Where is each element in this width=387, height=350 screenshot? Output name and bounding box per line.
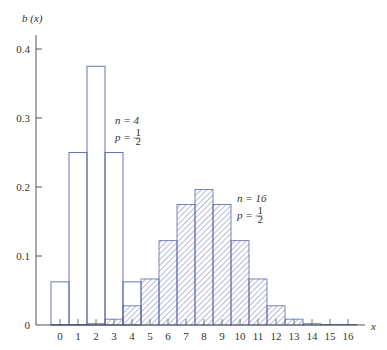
y-tick-label: 0 [25,319,31,331]
svg-text:n = 4: n = 4 [115,114,139,126]
bar-n4-x1 [69,153,87,326]
svg-text:n = 16: n = 16 [237,192,267,204]
x-tick-label: 12 [271,330,282,342]
bar-n16-x7 [177,205,195,325]
svg-text:p =: p = [114,131,131,143]
annotation-n16: n = 16p = 12 [236,192,267,225]
bar-n4-x3 [105,153,123,326]
y-tick-label: 0.2 [16,181,30,193]
y-tick-label: 0.3 [16,112,30,124]
bar-n16-x9 [213,205,231,325]
x-tick-label: 13 [289,330,301,342]
x-tick-label: 1 [75,330,81,342]
annotation-n4: n = 4p = 12 [114,114,141,147]
x-tick-label: 3 [111,330,117,342]
x-tick-label: 16 [343,330,355,342]
series-n4-bars [51,66,141,325]
bar-n16-x10 [231,241,249,325]
bar-n16-x8 [195,189,213,325]
x-tick-label: 9 [219,330,225,342]
bar-n4-x0 [51,282,69,325]
svg-text:2: 2 [257,213,263,225]
x-tick-label: 0 [57,330,63,342]
x-tick-label: 10 [235,330,247,342]
binomial-chart: 00.10.20.30.4012345678910111213141516xb … [0,0,387,350]
bar-n16-x5 [141,279,159,325]
x-tick-label: 4 [129,330,135,342]
x-tick-label: 8 [201,330,207,342]
bar-n4-x2 [87,66,105,325]
x-tick-label: 15 [325,330,337,342]
bar-n16-x6 [159,241,177,325]
x-tick-label: 11 [253,330,264,342]
x-tick-label: 5 [147,330,153,342]
bar-n16-x11 [249,279,267,325]
x-axis-label: x [370,320,376,332]
y-axis-label: b (x) [22,12,43,25]
svg-text:p =: p = [236,209,253,221]
series-n16-bars [51,189,357,325]
x-tick-label: 14 [307,330,319,342]
svg-text:2: 2 [135,135,141,147]
y-tick-label: 0.4 [16,43,30,55]
x-tick-label: 6 [165,330,171,342]
y-tick-label: 0.1 [16,250,30,262]
x-tick-label: 2 [93,330,99,342]
x-tick-label: 7 [183,330,189,342]
